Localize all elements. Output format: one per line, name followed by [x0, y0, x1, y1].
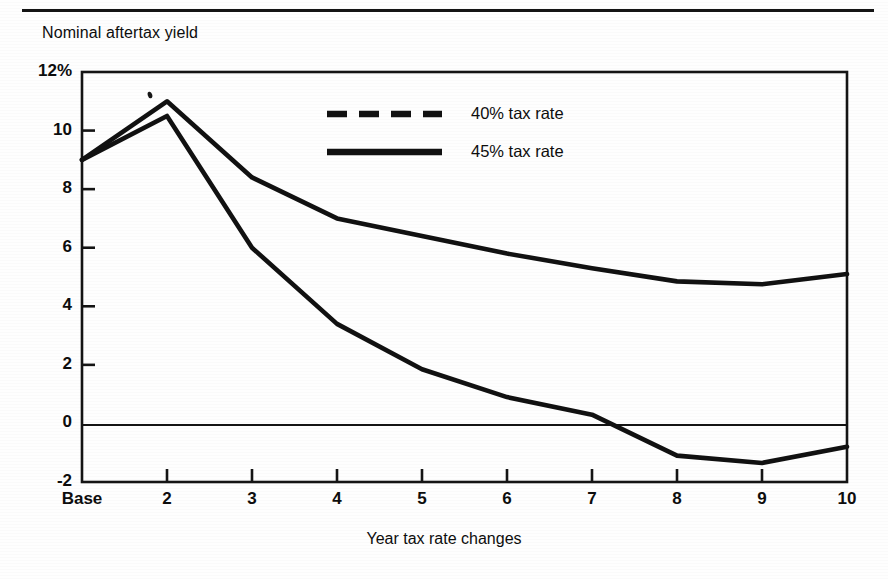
x-axis-title: Year tax rate changes — [0, 530, 888, 548]
series-line-40-tax-rate — [82, 116, 847, 463]
series-line-45-tax-rate — [82, 101, 847, 284]
peak-speck — [147, 91, 153, 99]
x-tick-marks — [167, 469, 762, 482]
y-tick-label: 2 — [16, 354, 72, 374]
x-tick-label: 3 — [247, 489, 256, 509]
plot-border — [82, 72, 847, 482]
x-tick-label: Base — [62, 489, 103, 509]
y-tick-label: 8 — [16, 178, 72, 198]
y-tick-label: 12% — [16, 61, 72, 81]
x-tick-label: 6 — [502, 489, 511, 509]
x-tick-label: 7 — [587, 489, 596, 509]
legend-swatches — [327, 114, 442, 152]
data-series-layer — [82, 101, 847, 463]
y-tick-label: 4 — [16, 295, 72, 315]
legend-label: 45% tax rate — [471, 142, 564, 161]
plot-frame — [82, 72, 847, 482]
y-tick-marks — [82, 131, 95, 365]
y-tick-label: -2 — [16, 471, 72, 491]
x-tick-label: 2 — [162, 489, 171, 509]
x-tick-label: 4 — [332, 489, 341, 509]
x-tick-label: 10 — [838, 489, 857, 509]
y-tick-label: 6 — [16, 237, 72, 257]
plot-area — [0, 0, 888, 579]
legend-label: 40% tax rate — [471, 104, 564, 123]
chart-figure: Nominal aftertax yield -2024681012% Base… — [0, 0, 888, 579]
x-tick-label: 8 — [672, 489, 681, 509]
y-tick-label: 10 — [16, 120, 72, 140]
y-tick-label: 0 — [16, 412, 72, 432]
x-tick-label: 9 — [757, 489, 766, 509]
x-tick-label: 5 — [417, 489, 426, 509]
